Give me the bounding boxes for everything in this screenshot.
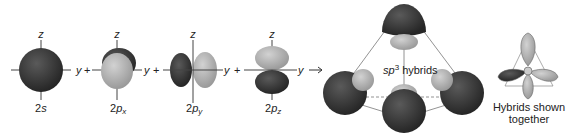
hybrid-top-big-lobe (382, 4, 426, 36)
y-axis-label: y (75, 64, 83, 76)
together-caption-line1: Hybrids shown (493, 101, 565, 113)
orbital-2py: z y + 2py (163, 28, 240, 116)
orbital-2px: z y + 2px (92, 28, 159, 116)
orbital-hybridization-diagram: z y + 2s z y + 2px z y + 2py z y 2pz (0, 0, 577, 140)
s-orbital-sphere (19, 48, 63, 92)
hybrid-bottom-big-lobe (382, 89, 426, 133)
pz-top-lobe (255, 46, 289, 70)
together-caption-line2: together (509, 113, 550, 125)
orbital-label-2px: 2px (110, 102, 127, 116)
orbital-label-2py: 2py (186, 102, 203, 116)
sp3-hybrids-label: sp3 hybrids (383, 63, 438, 76)
orbital-label-2pz: 2pz (265, 102, 281, 116)
z-axis-label: z (113, 28, 120, 40)
hybrids-together: Hybrids shown together (493, 33, 565, 125)
plus-sign: + (84, 64, 90, 76)
pz-bottom-lobe (255, 70, 289, 94)
orbital-2s: z y + 2s (11, 28, 90, 114)
plus-sign: + (153, 64, 159, 76)
z-axis-label: z (189, 28, 196, 40)
z-axis-label: z (37, 28, 44, 40)
hybrid-left-small-lobe (352, 69, 374, 91)
orbital-label-2s: 2s (35, 102, 47, 114)
px-front-lobe (101, 53, 133, 89)
y-axis-label: y (143, 64, 151, 76)
hybrid-lobe-top (521, 33, 535, 66)
sp3-hybrids: sp3 hybrids (323, 4, 484, 133)
orbital-2pz: z y 2pz (244, 28, 305, 116)
hybrid-lobe-right (530, 69, 558, 81)
arrow-icon (309, 67, 322, 73)
hybrid-top-small-lobe (390, 34, 418, 50)
y-axis-label: y (297, 64, 305, 76)
hybrid-lobe-left (498, 69, 526, 81)
z-axis-label: z (268, 28, 275, 40)
y-axis-label: y (223, 64, 231, 76)
nucleus-icon (524, 67, 532, 75)
plus-sign: + (234, 64, 240, 76)
hybrid-lobe-bottom (523, 74, 534, 99)
